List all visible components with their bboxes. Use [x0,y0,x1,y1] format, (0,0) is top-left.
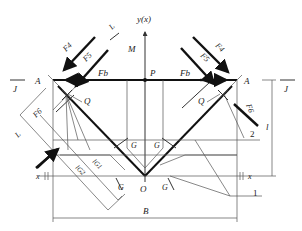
label-o: O [140,184,147,194]
dim-lg1-line [40,115,118,200]
label-f5-left: F5 [80,51,93,64]
label-j-left: J [13,84,18,94]
slant-ref-right [160,155,237,165]
dim-lg2-end [108,194,125,210]
right-fan-line [224,94,244,138]
label-b: B [143,206,149,216]
dim-lg1-end [118,196,122,200]
label-m: M [127,44,136,54]
label-l: l [266,122,269,132]
label-f6-left: F6 [30,107,43,120]
label-x-left: x [35,172,40,181]
v-groove-force-diagram: y(x) M P A A J J Q Q O B l x x 1 2 G G G… [0,0,302,231]
label-lg1: lG1 [91,158,104,171]
label-j-right: J [284,84,289,94]
label-a-left: A [34,76,41,86]
label-x-right: x [247,172,252,181]
label-g2: G [154,141,160,150]
label-g3: G [118,183,124,192]
label-2: 2 [250,129,255,139]
label-l-top: L [106,22,117,33]
g-mark-right-lower [168,178,174,190]
label-q-left: Q [84,96,91,106]
label-q-right: Q [198,96,205,106]
long-slant [195,140,230,196]
diagram-canvas: y(x) M P A A J J Q Q O B l x x 1 2 G G G… [0,0,302,231]
label-p: P [149,68,156,78]
slant-ref-1 [170,176,230,196]
label-fb-left: Fb [97,68,108,78]
f6-left-arrow [36,149,58,168]
label-fb-right: Fb [179,68,190,78]
y-axis-label: y(x) [136,14,151,24]
label-a-right: A [243,76,250,86]
label-g1: G [131,141,137,150]
g-mark-left-upper [114,138,128,148]
label-f4-left: F4 [60,41,73,54]
q-right-cross [218,90,228,100]
label-f6-right: F6 [244,102,256,114]
label-g4: G [162,183,168,192]
label-1: 1 [253,188,258,198]
fan-line-1 [66,94,68,150]
l-top-tick [110,33,119,40]
g-mark-right-upper [162,138,176,148]
f4-left-arrow [64,37,95,70]
label-l-left: L [12,130,23,141]
label-f4-right: F4 [213,40,226,53]
q-right-diagonal [182,82,210,108]
